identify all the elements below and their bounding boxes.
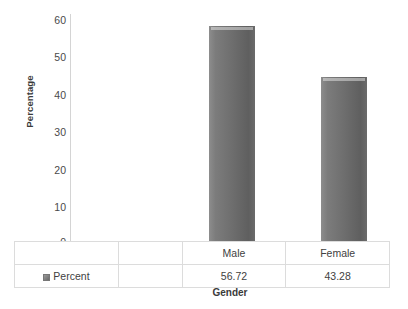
y-tick-50: 50 (32, 52, 66, 63)
table-spacer-cell (118, 242, 182, 265)
bar-top-highlight (211, 27, 253, 30)
table-header-male: Male (182, 242, 286, 265)
chart-data-table: Male Female Percent 56.72 43.28 (14, 241, 390, 288)
legend-series-cell: Percent (15, 265, 119, 288)
bar-female (321, 77, 367, 241)
y-tick-10: 10 (32, 202, 66, 213)
plot-area (70, 14, 390, 241)
table-corner-cell (15, 242, 119, 265)
bar-male (209, 26, 255, 241)
y-tick-30: 30 (32, 127, 66, 138)
table-header-row: Male Female (15, 242, 390, 265)
table-spacer-cell (118, 265, 182, 288)
table-value-female: 43.28 (286, 265, 390, 288)
table-header-female: Female (286, 242, 390, 265)
table-value-male: 56.72 (182, 265, 286, 288)
legend-swatch-icon (43, 274, 50, 281)
table-row: Percent 56.72 43.28 (15, 265, 390, 288)
y-tick-40: 40 (32, 90, 66, 101)
legend-series-label: Percent (53, 270, 89, 282)
x-axis-title: Gender (70, 287, 390, 298)
bar-chart: Percentage 60 50 40 30 20 10 0 Male Fema… (0, 0, 408, 309)
y-tick-60: 60 (32, 15, 66, 26)
y-tick-20: 20 (32, 165, 66, 176)
bar-top-highlight (323, 78, 365, 81)
